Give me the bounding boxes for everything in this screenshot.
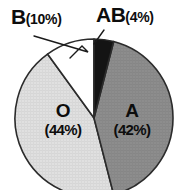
slice-label-ab: AB(4%) <box>96 4 154 25</box>
slice-label-a-name: A <box>107 101 157 120</box>
slice-label-a-percent: (42%) <box>107 122 157 137</box>
slice-label-ab-name: AB <box>96 3 125 26</box>
slice-label-b-percent: (10%) <box>26 11 62 27</box>
slice-label-b-name: B <box>11 5 26 28</box>
slice-label-o-percent: (44%) <box>34 122 92 137</box>
pie-chart: B(10%) AB(4%) O (44%) A (42%) <box>0 0 181 190</box>
slice-label-o: O (44%) <box>34 101 92 137</box>
slice-label-ab-percent: (4%) <box>125 9 153 25</box>
pie-chart-canvas <box>0 0 181 190</box>
slice-label-a: A (42%) <box>107 101 157 137</box>
slice-label-b: B(10%) <box>11 6 62 27</box>
slice-label-o-name: O <box>34 101 92 120</box>
